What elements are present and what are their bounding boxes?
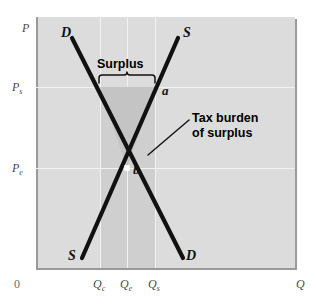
- supply-demand-figure: P Q 0 Ps Pe Qc Qe Qs D S S D a b Surplus…: [0, 0, 316, 306]
- supply-curve-label-top: S: [183, 26, 191, 40]
- origin-label: 0: [14, 278, 20, 290]
- point-label-a: a: [162, 84, 169, 97]
- diagram-vector-overlay: [0, 0, 316, 306]
- quantity-tick-qc-sub: c: [102, 284, 106, 293]
- quantity-tick-qs-base: Q: [148, 277, 157, 291]
- price-tick-ps: Ps: [12, 81, 22, 96]
- price-tick-pe-sub: e: [19, 168, 23, 177]
- tax-burden-annotation: Tax burden of surplus: [192, 111, 258, 140]
- quantity-tick-qs-sub: s: [157, 284, 160, 293]
- tax-burden-leader-line: [148, 120, 189, 155]
- quantity-tick-qe: Qe: [120, 278, 132, 293]
- price-tick-ps-sub: s: [19, 87, 22, 96]
- quantity-tick-qc: Qc: [93, 278, 105, 293]
- point-label-b: b: [133, 163, 140, 176]
- surplus-brace: [99, 72, 155, 83]
- quantity-tick-qe-base: Q: [120, 277, 129, 291]
- supply-curve: [82, 38, 178, 258]
- price-tick-pe: Pe: [12, 162, 23, 177]
- quantity-tick-qc-base: Q: [93, 277, 102, 291]
- quantity-tick-qe-sub: e: [129, 284, 133, 293]
- surplus-annotation: Surplus: [97, 58, 144, 71]
- demand-curve-label-bottom: D: [186, 249, 196, 263]
- supply-curve-label-bottom: S: [68, 249, 76, 263]
- x-axis-label: Q: [296, 278, 305, 290]
- y-axis-label: P: [22, 22, 29, 34]
- demand-curve: [72, 38, 183, 258]
- equilibrium-point-marker: [124, 165, 130, 171]
- quantity-tick-qs: Qs: [148, 278, 160, 293]
- demand-curve-label-top: D: [61, 26, 71, 40]
